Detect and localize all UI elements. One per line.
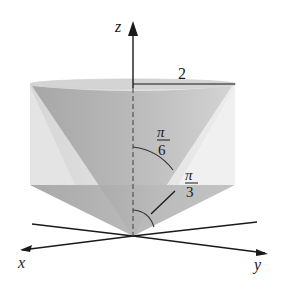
cone-region-diagram: z x y 2 π 6 π 3: [0, 0, 287, 295]
angle-pi-3-denominator: 3: [186, 184, 194, 200]
angle-pi-6-denominator: 6: [158, 142, 166, 158]
y-axis-arrow-icon: [256, 249, 268, 256]
z-axis-label: z: [114, 18, 122, 35]
z-axis-arrow-icon: [128, 21, 138, 36]
x-axis-arrow-icon: [20, 245, 32, 252]
y-axis-label: y: [252, 256, 262, 274]
x-axis-label: x: [17, 254, 25, 271]
angle-pi-3-numerator: π: [185, 167, 193, 183]
radius-label: 2: [178, 65, 186, 82]
angle-pi-6-numerator: π: [157, 124, 165, 140]
